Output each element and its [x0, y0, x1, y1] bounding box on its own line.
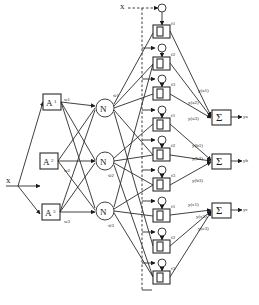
svg-text:f2: f2	[171, 52, 176, 57]
label-yc2: y(c2)	[196, 214, 207, 219]
neuro-fuzzy-diagram: x A 1 A 2 A 3 w1 w2 w3 N N	[0, 0, 259, 305]
weight-wbar2: w̄2	[108, 173, 115, 178]
svg-text:N: N	[100, 104, 107, 114]
svg-text:N: N	[100, 157, 107, 167]
rule-block-7: f1	[142, 197, 176, 222]
sum-node-a: Σ ya	[212, 110, 249, 125]
edges-rules-to-sum	[170, 31, 211, 277]
normalization-node-2: N	[96, 152, 114, 170]
svg-text:N: N	[100, 207, 107, 217]
label-yb2: y(b2)	[192, 156, 203, 161]
svg-text:f1: f1	[171, 113, 176, 118]
rule-block-8: f2	[142, 228, 176, 253]
label-yb3: y(b3)	[192, 178, 203, 183]
membership-node-a1: A 1	[43, 94, 61, 110]
label-ya1: y(a1)	[198, 88, 209, 93]
membership-node-a2: A 2	[40, 153, 58, 169]
sum-node-c: Σ yc	[212, 203, 249, 218]
label-yc3: y(c3)	[198, 226, 209, 231]
top-input-x-label: x	[120, 1, 125, 11]
rule-block-6: f3	[142, 166, 176, 191]
label-yc1: y(c1)	[188, 202, 199, 207]
weight-w1: w1	[64, 97, 71, 102]
svg-text:f2: f2	[171, 235, 176, 240]
svg-text:A: A	[46, 98, 53, 108]
rule-block-1: f1	[153, 4, 176, 38]
rule-block-2: f2	[142, 44, 176, 70]
label-yb1: y(b1)	[192, 143, 203, 148]
membership-node-a3: A 3	[42, 204, 60, 220]
weight-wbar3: w̄3	[108, 223, 115, 228]
weight-w3: w3	[64, 219, 71, 224]
input-x-label: x	[6, 175, 11, 185]
edges-n-to-rules	[114, 33, 153, 277]
svg-text:Σ: Σ	[216, 155, 222, 167]
svg-text:f2: f2	[171, 143, 176, 148]
edge-x-a3	[18, 186, 40, 214]
rule-block-9: f3	[142, 259, 176, 284]
svg-text:Σ: Σ	[216, 111, 222, 123]
diagram-canvas: x A 1 A 2 A 3 w1 w2 w3 N N	[0, 0, 259, 305]
label-ya2: y(a2)	[188, 100, 199, 105]
svg-text:f3: f3	[171, 82, 176, 87]
svg-text:yc: yc	[243, 207, 249, 212]
edges-a-to-n	[58, 102, 95, 212]
edge-x-a1	[18, 102, 43, 186]
sum-node-b: Σ yb	[212, 154, 249, 169]
normalization-node-3: N	[96, 202, 114, 220]
svg-text:A: A	[43, 157, 50, 167]
svg-text:yb: yb	[243, 158, 249, 163]
svg-text:f1: f1	[171, 21, 176, 26]
svg-text:ya: ya	[243, 114, 249, 119]
weight-w2: w2	[64, 168, 71, 173]
rule-block-4: f1	[142, 106, 176, 131]
svg-text:f1: f1	[171, 204, 176, 209]
svg-text:Σ: Σ	[216, 204, 222, 216]
svg-text:f3: f3	[171, 173, 176, 178]
label-ya3: y(a3)	[188, 116, 199, 121]
svg-text:A: A	[45, 208, 52, 218]
normalization-node-1: N	[96, 99, 114, 117]
